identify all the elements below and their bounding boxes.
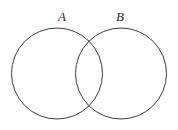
set-label-b: B: [116, 9, 124, 24]
venn-diagram-canvas: A B: [0, 0, 178, 130]
venn-diagram-figure: A B: [0, 0, 178, 130]
set-label-a: A: [57, 9, 66, 24]
figure-background: [0, 0, 178, 130]
